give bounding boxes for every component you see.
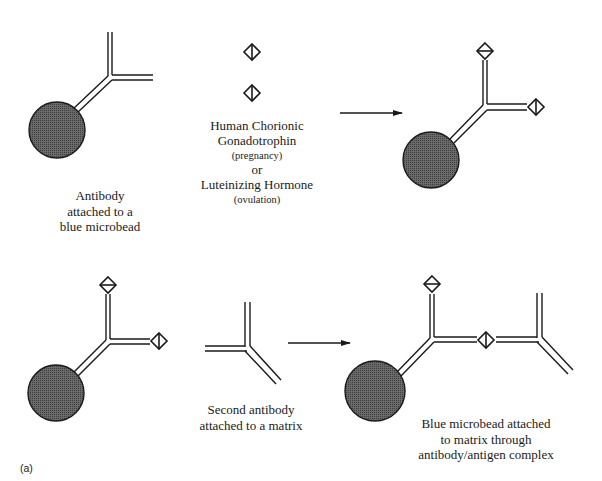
caption-bead-matrix-complex: Blue microbead attached to matrix throug… (418, 416, 553, 463)
diamond-antigen-icon (151, 333, 167, 349)
microbead-icon (29, 102, 85, 158)
caption-line: Second antibody (200, 402, 303, 418)
microbead-icon (28, 365, 84, 421)
caption-line: to matrix through (418, 432, 553, 448)
antigen-icons (244, 44, 260, 101)
diamond-antigen-icon (528, 99, 544, 115)
second-antibody-icon (205, 302, 281, 384)
antibody-bead-bound-top-right (403, 43, 544, 188)
bead-matrix-complex (345, 276, 573, 421)
matrix-antibody-icon (496, 293, 573, 374)
caption-line: Luteinizing Hormone (201, 178, 313, 193)
antibody-icon (397, 294, 477, 376)
microbead-icon (403, 132, 459, 188)
caption-line: antibody/antigen complex (418, 447, 553, 463)
antibody-icon (74, 294, 150, 376)
diamond-antigen-icon (478, 332, 494, 348)
diamond-antigen-icon (100, 277, 116, 293)
diamond-antigen-icon (424, 276, 440, 292)
caption-line: Blue microbead attached (418, 416, 553, 432)
panel-label: (a) (20, 462, 33, 474)
caption-line: Gonadotrophin (201, 134, 313, 149)
caption-line-pregnancy: (pregnancy) (201, 148, 313, 163)
caption-line-ovulation: (ovulation) (201, 192, 313, 207)
diamond-antigen-icon (244, 85, 260, 101)
caption-line: Human Chorionic (201, 119, 313, 134)
antibody-bead-bound-bottom-left (28, 277, 167, 421)
diamond-antigen-icon (244, 44, 260, 60)
antibody-icon (450, 60, 527, 143)
caption-line: attached to a (60, 204, 141, 220)
caption-line: Antibody (60, 188, 141, 204)
antibody-icon (73, 32, 153, 113)
caption-second-antibody: Second antibody attached to a matrix (200, 402, 303, 433)
caption-antibody-bead: Antibody attached to a blue microbead (60, 188, 141, 235)
microbead-icon (345, 361, 405, 421)
caption-antigen: Human Chorionic Gonadotrophin (pregnancy… (201, 119, 313, 207)
caption-line-or: or (201, 163, 313, 178)
caption-line: blue microbead (60, 219, 141, 235)
antibody-bead-top-left (29, 32, 153, 158)
diagram-canvas: Antibody attached to a blue microbead Hu… (0, 0, 602, 481)
caption-line: attached to a matrix (200, 418, 303, 434)
diamond-antigen-icon (477, 43, 493, 59)
